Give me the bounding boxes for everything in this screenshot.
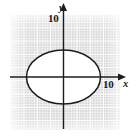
axes-and-curve (0, 0, 137, 139)
x-axis-tick-label: 10 (103, 79, 113, 90)
x-axis-name-label: x (123, 79, 128, 90)
y-axis-tick-label: 10 (48, 13, 58, 24)
graph-figure: 10 y 10 x (0, 0, 137, 139)
y-axis-name-label: y (59, 3, 64, 14)
